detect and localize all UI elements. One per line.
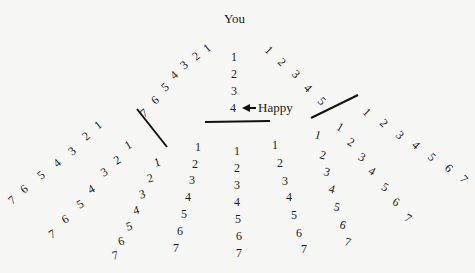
scale-digit-center-left: 7 bbox=[173, 242, 179, 254]
scale-digit-center-left: 4 bbox=[185, 191, 191, 203]
scale-digit-center-left: 1 bbox=[195, 141, 201, 153]
scale-digit-center-left: 2 bbox=[192, 158, 198, 170]
scale-digit-top-center: 2 bbox=[231, 68, 237, 80]
scale-digit-right-1: 1 bbox=[272, 139, 278, 151]
scale-digit-center: 2 bbox=[234, 162, 240, 174]
scale-digit-center-left: 6 bbox=[177, 225, 183, 237]
scale-digit-center: 7 bbox=[236, 247, 242, 259]
scale-digit-top-center: 3 bbox=[231, 85, 237, 97]
scale-digit-top-center: 4 bbox=[230, 102, 236, 114]
scale-digit-right-1: 2 bbox=[277, 157, 283, 169]
scale-digit-center: 4 bbox=[234, 196, 240, 208]
scale-digit-center: 5 bbox=[235, 213, 241, 225]
scale-digit-right-1: 5 bbox=[291, 209, 297, 221]
scale-digit-center: 1 bbox=[234, 145, 240, 157]
decision-tree-diagram: You Happy 123456712341234512345671234567… bbox=[0, 0, 475, 273]
scale-digit-right-1: 6 bbox=[296, 227, 302, 239]
scale-digit-right-1: 4 bbox=[286, 191, 292, 203]
scale-digit-center: 3 bbox=[234, 179, 240, 191]
center-bar bbox=[205, 121, 270, 122]
scale-digit-center: 6 bbox=[236, 230, 242, 242]
scale-digit-center-left: 5 bbox=[181, 208, 187, 220]
scale-digit-right-1: 7 bbox=[301, 243, 307, 255]
scale-digit-top-center: 1 bbox=[231, 51, 237, 63]
scale-digit-center-left: 3 bbox=[189, 174, 195, 186]
scale-digit-right-1: 3 bbox=[282, 175, 288, 187]
arrow-left-icon bbox=[242, 104, 250, 112]
